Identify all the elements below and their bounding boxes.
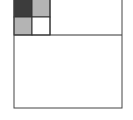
cell-bottom-right xyxy=(32,17,50,35)
cell-top-left xyxy=(14,0,32,17)
cell-top-right xyxy=(32,0,50,17)
subdivision-diagram xyxy=(0,0,133,120)
cell-bottom-left xyxy=(14,17,32,35)
